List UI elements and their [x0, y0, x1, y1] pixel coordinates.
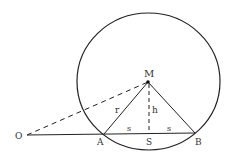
radius-M-A — [104, 82, 148, 134]
center-point-M — [146, 80, 150, 84]
label-s-left: s — [127, 124, 131, 133]
label-s-right: s — [167, 124, 171, 133]
label-O: O — [15, 131, 22, 141]
geometry-diagram: M A B S O r h s s — [0, 0, 229, 158]
label-S: S — [146, 137, 152, 147]
line-O-B — [27, 133, 195, 135]
label-r: r — [115, 105, 120, 115]
label-A: A — [96, 137, 104, 147]
label-h: h — [152, 105, 158, 115]
label-M: M — [144, 68, 154, 79]
label-B: B — [195, 137, 202, 147]
